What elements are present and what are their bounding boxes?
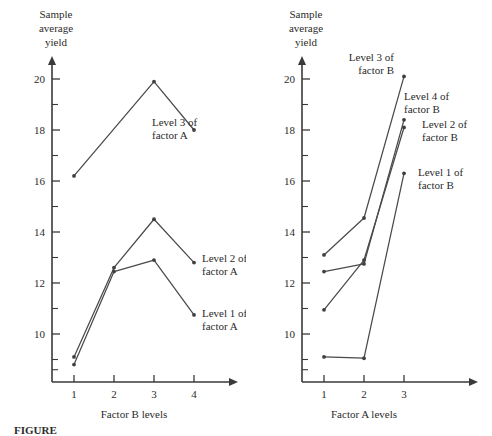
y-tick-label: 14 [284, 226, 296, 238]
text-group-left: 1012141618201234SampleaverageyieldFactor… [34, 8, 246, 420]
series-label-line1: Level 4 of [404, 90, 450, 102]
series-label-line2: factor B [422, 131, 458, 143]
series-label: Level 1 offactor A [202, 307, 246, 332]
y-tick-label: 10 [34, 328, 46, 340]
series-label-line2: factor B [358, 64, 394, 76]
data-point [72, 174, 76, 178]
y-tick-label: 16 [34, 175, 46, 187]
data-point [192, 128, 196, 132]
series-label-line2: factor B [418, 179, 454, 191]
data-point [362, 258, 366, 262]
series-label-line1: Level 1 of [202, 307, 246, 319]
series-label: Level 2 offactor A [202, 252, 246, 277]
y-tick-label: 20 [284, 73, 296, 85]
axes-left [48, 56, 238, 386]
series-label-line2: factor A [152, 129, 188, 141]
data-point [322, 270, 326, 274]
series-label-line1: Level 1 of [418, 166, 464, 178]
data-point [112, 266, 116, 270]
x-tick-label: 2 [111, 388, 117, 400]
series-label-line2: factor B [404, 103, 440, 115]
y-axis-title-line2: average [39, 22, 73, 34]
data-point [152, 258, 156, 262]
data-point [72, 363, 76, 367]
chart-svg-left: 1012141618201234SampleaverageyieldFactor… [0, 0, 246, 436]
y-tick-label: 18 [34, 124, 46, 136]
y-tick-label: 12 [284, 277, 295, 289]
y-axis-title-line3: yield [295, 36, 317, 48]
series-label-line2: factor A [202, 320, 238, 332]
series-label-line1: Level 3 of [152, 116, 198, 128]
chart-panel-factor-a: 101214161820123SampleaverageyieldFactor … [246, 0, 492, 436]
series-label: Level 4 offactor B [404, 90, 450, 115]
series-label-line2: factor A [202, 265, 238, 277]
y-tick-label: 20 [34, 73, 46, 85]
data-point [322, 308, 326, 312]
x-tick-label: 3 [401, 388, 407, 400]
series-group-right [322, 75, 406, 361]
series-label: Level 2 offactor B [422, 118, 468, 143]
figure-caption: FIGURE [14, 424, 57, 436]
series-label: Level 3 offactor A [152, 116, 198, 141]
y-tick-label: 18 [284, 124, 296, 136]
x-tick-label: 1 [321, 388, 327, 400]
chart-panel-factor-b: 1012141618201234SampleaverageyieldFactor… [0, 0, 246, 436]
data-point [72, 355, 76, 359]
data-point [192, 313, 196, 317]
chart-svg-right: 101214161820123SampleaverageyieldFactor … [246, 0, 492, 436]
series-label: Level 1 offactor B [418, 166, 464, 191]
data-point [192, 261, 196, 265]
text-group-right: 101214161820123SampleaverageyieldFactor … [284, 8, 468, 420]
interaction-plot-figure: 1012141618201234SampleaverageyieldFactor… [0, 0, 492, 436]
y-axis-title-line3: yield [45, 36, 67, 48]
data-point [112, 270, 116, 274]
x-axis-title: Factor B levels [101, 408, 168, 420]
data-line [74, 260, 194, 365]
x-tick-label: 3 [151, 388, 157, 400]
data-point [362, 216, 366, 220]
data-point [402, 171, 406, 175]
data-point [402, 126, 406, 130]
y-axis-title-line1: Sample [40, 8, 73, 20]
data-line [324, 120, 404, 272]
data-point [402, 118, 406, 122]
y-tick-label: 12 [34, 277, 45, 289]
y-axis-title-line1: Sample [290, 8, 323, 20]
y-axis-arrow [298, 56, 306, 65]
data-point [322, 253, 326, 257]
series-label: Level 3 offactor B [349, 51, 395, 76]
series-label-line1: Level 2 of [202, 252, 246, 264]
data-point [152, 80, 156, 84]
data-point [152, 217, 156, 221]
x-tick-label: 1 [71, 388, 77, 400]
y-axis-arrow [48, 56, 56, 65]
data-point [362, 356, 366, 360]
series-label-line1: Level 2 of [422, 118, 468, 130]
data-point [322, 355, 326, 359]
data-line [74, 219, 194, 357]
data-line [324, 173, 404, 358]
series-label-line1: Level 3 of [349, 51, 395, 63]
x-tick-label: 2 [361, 388, 367, 400]
axes-right [298, 56, 478, 386]
y-tick-label: 14 [34, 226, 46, 238]
x-axis-arrow [229, 378, 238, 386]
x-tick-label: 4 [191, 388, 197, 400]
data-point [402, 75, 406, 79]
y-tick-label: 10 [284, 328, 296, 340]
y-tick-label: 16 [284, 175, 296, 187]
x-axis-title: Factor A levels [331, 408, 397, 420]
y-axis-title-line2: average [289, 22, 323, 34]
x-axis-arrow [469, 378, 478, 386]
